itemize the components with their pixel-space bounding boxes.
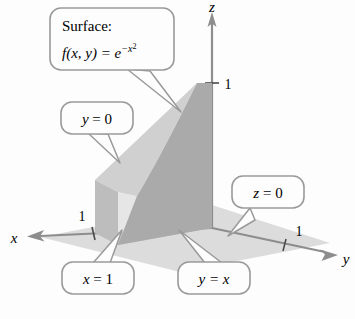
x-axis-tick-label: 1 (79, 209, 86, 224)
y-zero-callout-tail (88, 133, 120, 163)
x-one-rest: = 1 (90, 271, 113, 287)
x-one-callout-label: x = 1 (82, 271, 113, 287)
x-axis-label: x (10, 230, 18, 246)
surface-equation-exponent-power: 2 (132, 42, 136, 51)
surface-callout-tail (127, 69, 181, 112)
math-figure-3d-solid: x y z 1 1 1 Surface: f(x, y) = e−x2 y = … (0, 0, 355, 319)
z-axis-label: z (208, 0, 215, 15)
y-axis-arrowhead (320, 250, 338, 262)
z-zero-rest: = 0 (259, 185, 282, 201)
y-eq-x-variable: y (197, 271, 206, 287)
figure-canvas: x y z 1 1 1 Surface: f(x, y) = e−x2 y = … (0, 0, 355, 319)
y-zero-callout-label: y = 0 (80, 111, 112, 127)
y-axis-label: y (341, 251, 350, 267)
surface-callout-title: Surface: (62, 18, 112, 34)
y-axis-tick-label: 1 (296, 224, 303, 239)
z-zero-callout-label: z = 0 (252, 185, 282, 201)
y-zero-rest: = 0 (89, 111, 112, 127)
surface-equation-lhs: f(x, y) = e (62, 45, 122, 62)
y-eq-x-rest: = x (205, 271, 230, 287)
surface-equation-exponent: −x (121, 43, 133, 54)
z-axis-tick-label: 1 (225, 77, 232, 92)
y-zero-variable: y (80, 111, 89, 127)
y-eq-x-callout-label: y = x (197, 271, 230, 287)
